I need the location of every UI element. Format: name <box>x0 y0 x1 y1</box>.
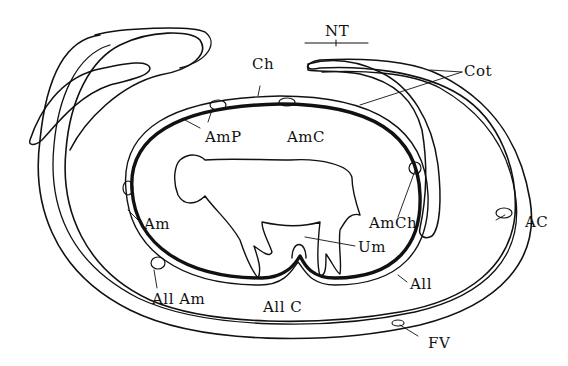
allantoic-plaque <box>151 257 165 269</box>
label-amp: AmP <box>205 130 242 145</box>
leader-amch <box>398 168 416 217</box>
chorion-outer-wall <box>38 33 531 338</box>
label-all: All <box>410 277 432 292</box>
leader-all-am <box>154 270 157 288</box>
label-amc: AmC <box>287 130 325 145</box>
label-ac: AC <box>525 215 548 230</box>
leader-um <box>305 237 355 246</box>
label-fv: FV <box>428 336 450 351</box>
chorion-plaque <box>496 208 512 218</box>
label-cot: Cot <box>464 64 492 79</box>
label-um: Um <box>358 240 386 255</box>
label-am: Am <box>144 217 170 232</box>
left-horn <box>30 63 150 145</box>
label-all-am: All Am <box>152 292 205 307</box>
fetal-membranes-diagram: NT Ch Cot AmP AmC AmCh AC Am Um All All … <box>0 0 568 366</box>
chorion-inner-wall <box>53 45 517 324</box>
label-nt: NT <box>325 24 349 39</box>
fetal-vessel <box>392 320 404 326</box>
nt-bracket <box>305 40 368 46</box>
label-all-c: All C <box>263 300 302 315</box>
label-ch: Ch <box>252 57 274 72</box>
lamb-fetus <box>175 155 360 278</box>
leader-ch <box>258 86 260 96</box>
label-amch: AmCh <box>369 216 417 231</box>
leader-all <box>398 275 407 282</box>
